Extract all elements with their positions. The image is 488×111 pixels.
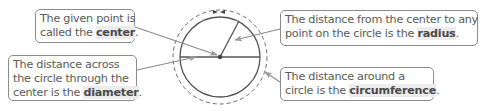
diameter-line2: the circle through the [13, 72, 132, 86]
radius-period: . [456, 27, 459, 40]
center-line1: The given point is [40, 12, 130, 26]
circumference-period: . [436, 84, 439, 97]
center-callout: The given point is called the center. [35, 9, 135, 43]
radius-line2-text: point on the circle is the [285, 27, 417, 40]
center-pointer [135, 27, 217, 55]
circumference-line1: The distance around a [285, 70, 429, 84]
diameter-line3-text: center is the [13, 86, 83, 99]
radius-line2: point on the circle is the radius. [285, 27, 473, 41]
radius-callout: The distance from the center to any poin… [280, 10, 478, 46]
center-period: . [135, 26, 138, 39]
circumference-line2-text: circle is the [285, 84, 349, 97]
radius-term: radius [417, 27, 455, 40]
diameter-period: . [139, 86, 142, 99]
radius-pointer [235, 29, 280, 40]
center-point [218, 55, 222, 59]
radius-line [220, 21, 239, 57]
circumference-term: circumference [349, 84, 436, 97]
center-line2-text: called the [40, 26, 96, 39]
diameter-line1: The distance across [13, 58, 132, 72]
diameter-line3: center is the diameter. [13, 86, 132, 100]
radius-line1: The distance from the center to any [285, 13, 473, 27]
diameter-callout: The distance across the circle through t… [8, 55, 137, 101]
center-line2: called the center. [40, 26, 130, 40]
circumference-pointer [265, 72, 280, 82]
diameter-term: diameter [83, 86, 138, 99]
circumference-callout: The distance around a circle is the circ… [280, 67, 434, 101]
diameter-pointer [137, 57, 196, 70]
center-term: center [96, 26, 135, 39]
circumference-line2: circle is the circumference. [285, 84, 429, 98]
